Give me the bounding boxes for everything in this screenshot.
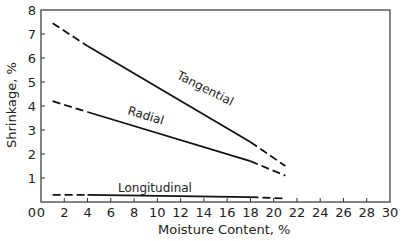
series-line-radial	[53, 101, 88, 112]
x-tick-label: 2	[60, 205, 68, 220]
y-tick-label: 4	[28, 99, 36, 114]
y-axis-label: Shrinkage, %	[4, 62, 19, 148]
x-tick-label: 22	[289, 205, 306, 220]
y-tick-label: 2	[28, 147, 36, 162]
data-series	[53, 23, 286, 198]
x-tick-label: 4	[83, 205, 91, 220]
y-tick-label: 7	[28, 27, 36, 42]
series-line-longitudinal	[250, 197, 285, 198]
y-tick-label: 5	[28, 75, 36, 90]
x-tick-label: 0	[37, 205, 45, 220]
x-tick-label: 8	[130, 205, 138, 220]
series-line-longitudinal	[88, 195, 251, 197]
shrinkage-chart: 024681012141618202224262830 012345678 Ta…	[0, 0, 402, 241]
series-label-radial: Radial	[126, 103, 166, 127]
x-tick-label: 6	[107, 205, 115, 220]
y-tick-label: 3	[28, 123, 36, 138]
y-axis-ticks: 012345678	[28, 3, 45, 220]
x-tick-label: 16	[219, 205, 236, 220]
y-tick-label: 6	[28, 51, 36, 66]
series-label-longitudinal: Longitudinal	[118, 181, 192, 195]
series-line-tangential	[53, 23, 88, 46]
series-line-radial	[88, 112, 251, 161]
x-tick-label: 28	[358, 205, 375, 220]
x-tick-label: 24	[312, 205, 329, 220]
y-tick-label: 1	[28, 171, 36, 186]
x-tick-label: 14	[196, 205, 213, 220]
x-tick-label: 10	[149, 205, 166, 220]
x-axis-ticks: 024681012141618202224262830	[37, 198, 398, 220]
x-tick-label: 18	[242, 205, 259, 220]
x-tick-label: 26	[335, 205, 352, 220]
y-tick-label: 0	[28, 205, 36, 220]
y-tick-label: 8	[28, 3, 36, 18]
x-tick-label: 20	[265, 205, 282, 220]
x-tick-label: 12	[172, 205, 189, 220]
x-axis-label: Moisture Content, %	[158, 222, 290, 237]
x-tick-label: 30	[382, 205, 399, 220]
plot-frame	[41, 10, 390, 202]
